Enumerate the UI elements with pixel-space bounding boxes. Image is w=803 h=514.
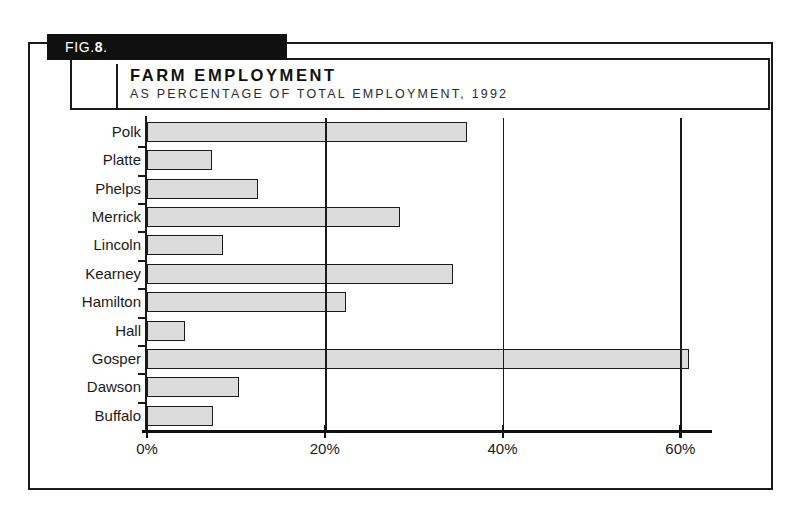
category-label: Buffalo	[95, 402, 141, 430]
category-label: Merrick	[92, 203, 141, 231]
category-label: Kearney	[85, 260, 141, 288]
bar	[147, 406, 213, 426]
x-tick-label: 0%	[136, 440, 158, 457]
bar	[147, 122, 467, 142]
figure-number-label: FIG.8.	[65, 39, 108, 55]
x-tick	[502, 425, 504, 438]
bar	[147, 150, 212, 170]
bar-row	[147, 402, 707, 430]
category-label: Dawson	[87, 373, 141, 401]
x-tick	[324, 425, 326, 438]
title-text-group: FARM EMPLOYMENT AS PERCENTAGE OF TOTAL E…	[130, 65, 508, 103]
x-tick	[679, 425, 681, 438]
bar-row	[147, 175, 707, 203]
title-divider	[116, 64, 118, 108]
bar	[147, 349, 689, 369]
chart-title-box: FARM EMPLOYMENT AS PERCENTAGE OF TOTAL E…	[70, 58, 770, 110]
x-tick	[146, 425, 148, 438]
bar-row	[147, 146, 707, 174]
category-label: Lincoln	[93, 231, 141, 259]
category-label: Hamilton	[82, 288, 141, 316]
bar	[147, 264, 453, 284]
bar-row	[147, 345, 707, 373]
bar-row	[147, 260, 707, 288]
bar	[147, 235, 223, 255]
bar	[147, 377, 239, 397]
chart-subtitle: AS PERCENTAGE OF TOTAL EMPLOYMENT, 1992	[130, 86, 508, 103]
bar-row	[147, 317, 707, 345]
bar	[147, 321, 185, 341]
bar-row	[147, 288, 707, 316]
bar-row	[147, 118, 707, 146]
x-tick-label: 20%	[310, 440, 340, 457]
x-axis-spine	[142, 430, 712, 433]
chart-title: FARM EMPLOYMENT	[130, 65, 508, 86]
bars-region	[147, 118, 707, 430]
bar	[147, 179, 258, 199]
x-tick-label: 40%	[488, 440, 518, 457]
category-axis-labels: PolkPlattePhelpsMerrickLincolnKearneyHam…	[28, 118, 147, 430]
x-gridline	[503, 118, 505, 430]
category-label: Polk	[112, 118, 141, 146]
category-label: Platte	[103, 146, 141, 174]
x-gridline	[680, 118, 682, 430]
figure-number-tab: FIG.8.	[47, 34, 287, 60]
category-label: Phelps	[95, 175, 141, 203]
bar	[147, 292, 346, 312]
category-label: Hall	[115, 317, 141, 345]
bar-row	[147, 231, 707, 259]
figure-page: FIG.8. FARM EMPLOYMENT AS PERCENTAGE OF …	[0, 0, 803, 514]
bar-row	[147, 203, 707, 231]
x-tick-label: 60%	[665, 440, 695, 457]
category-label: Gosper	[92, 345, 141, 373]
bar-row	[147, 373, 707, 401]
y-axis-spine	[145, 116, 147, 432]
x-gridline	[325, 118, 327, 430]
bar	[147, 207, 400, 227]
